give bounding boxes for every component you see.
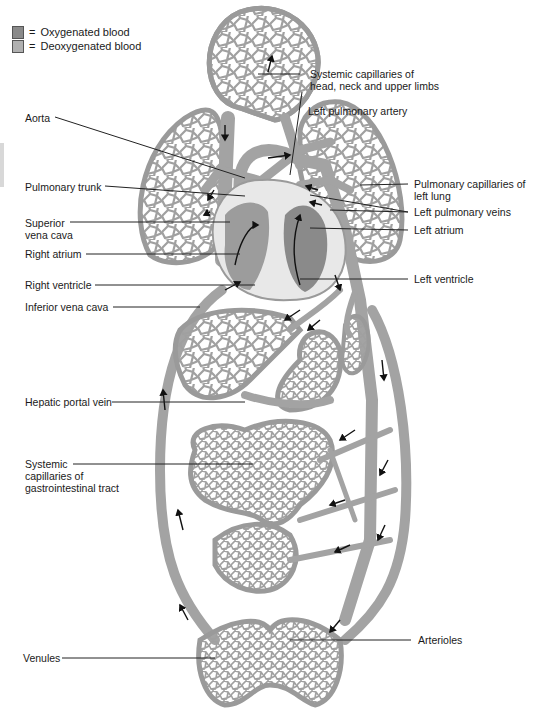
label-right-atrium: Right atrium (25, 248, 82, 260)
label-line: left lung (414, 190, 525, 202)
label-hepatic-portal-vein: Hepatic portal vein (25, 396, 112, 408)
head-capillary-bed (209, 8, 318, 120)
legend-item-oxygenated: = Oxygenated blood (12, 25, 141, 39)
legend-equals: = (29, 25, 35, 39)
label-line: capillaries of (25, 470, 119, 482)
label-aorta: Aorta (25, 112, 50, 124)
legend-label: Deoxygenated blood (40, 39, 141, 53)
label-line: Superior (25, 217, 73, 229)
label-line: vena cava (25, 229, 73, 241)
label-superior-vena-cava: Superior vena cava (25, 217, 73, 241)
legend-equals: = (29, 39, 35, 53)
label-head-capillaries: Systemic capillaries of head, neck and u… (310, 68, 439, 92)
lower-limb-capillaries (199, 620, 342, 705)
gi-capillaries (191, 421, 333, 591)
label-line: Systemic capillaries of (310, 68, 439, 80)
legend-item-deoxygenated: = Deoxygenated blood (12, 39, 141, 53)
label-right-ventricle: Right ventricle (25, 279, 92, 291)
legend-label: Oxygenated blood (40, 25, 129, 39)
deoxygenated-swatch (12, 40, 24, 53)
label-left-pulmonary-veins: Left pulmonary veins (414, 206, 511, 218)
label-left-pulmonary-artery: Left pulmonary artery (308, 105, 407, 117)
label-gi-capillaries: Systemic capillaries of gastrointestinal… (25, 458, 119, 494)
label-pulmonary-capillaries-left-lung: Pulmonary capillaries of left lung (414, 178, 525, 202)
legend: = Oxygenated blood = Deoxygenated blood (12, 25, 141, 53)
label-line: head, neck and upper limbs (310, 80, 439, 92)
label-line: gastrointestinal tract (25, 482, 119, 494)
label-left-atrium: Left atrium (414, 224, 464, 236)
label-arterioles: Arterioles (418, 634, 462, 646)
label-left-ventricle: Left ventricle (414, 273, 474, 285)
label-venules: Venules (23, 652, 60, 664)
label-line: Systemic (25, 458, 119, 470)
oxygenated-swatch (12, 26, 24, 39)
label-line: Pulmonary capillaries of (414, 178, 525, 190)
label-inferior-vena-cava: Inferior vena cava (25, 301, 108, 313)
label-pulmonary-trunk: Pulmonary trunk (25, 181, 101, 193)
circulatory-diagram (0, 0, 541, 722)
